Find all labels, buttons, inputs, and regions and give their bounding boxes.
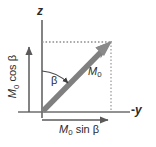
cos-component-subscript: 0 — [12, 85, 21, 89]
angle-beta-label: β — [51, 75, 57, 86]
vector-m0-symbol: M — [88, 65, 97, 77]
cos-component-label: M0 cos β — [7, 49, 20, 105]
sin-component-function: sin β — [73, 123, 100, 135]
y-axis-label: -y — [131, 104, 142, 116]
vector-m0-subscript: 0 — [97, 70, 101, 79]
vector-decomposition-figure: z -y M0 β M0 sin β M0 cos β — [0, 0, 156, 147]
y-axis-letter: y — [135, 103, 142, 117]
vector-m0-label: M0 — [88, 66, 102, 79]
cos-component-symbol: M — [6, 89, 18, 98]
cos-component-function: cos β — [6, 55, 18, 85]
sin-component-label: M0 sin β — [59, 124, 99, 137]
sin-component-symbol: M — [59, 123, 68, 135]
z-axis-label: z — [37, 5, 43, 17]
